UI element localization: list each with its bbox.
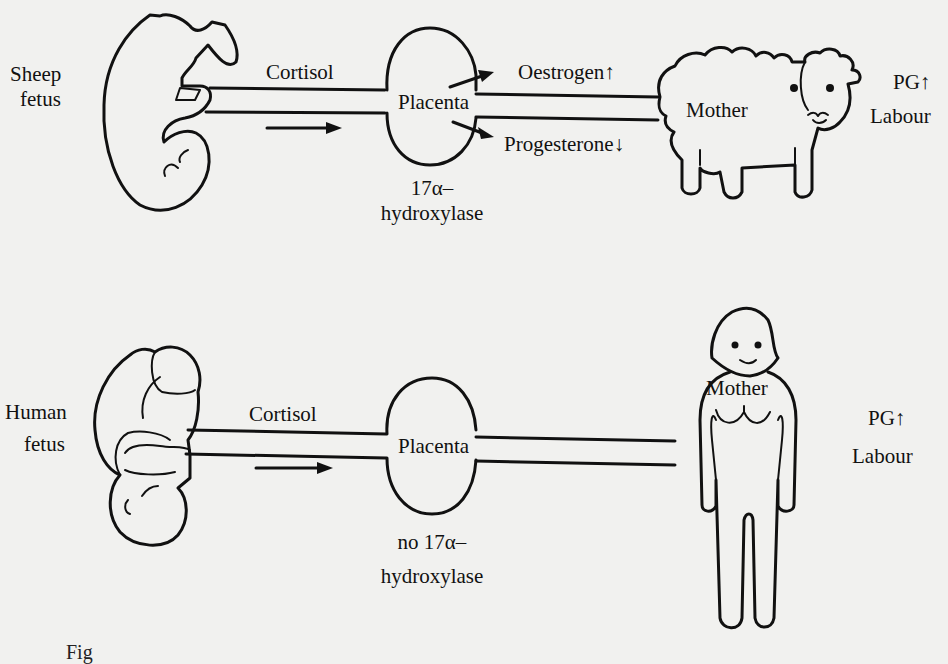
oestrogen-up-arrow-icon: ↑ (604, 60, 615, 84)
sheep-mother-label: Mother (686, 98, 748, 122)
sheep-umbilical-top-line (210, 88, 385, 90)
progesterone-down-arrow-icon: ↓ (614, 132, 625, 156)
human-mother-label: Mother (706, 376, 768, 400)
sheep-umbilical-bottom-line (206, 112, 385, 113)
sheep-maternal-bottom-line (476, 117, 658, 120)
human-maternal-bottom-line (476, 461, 675, 465)
human-fetus-label-line2: fetus (24, 432, 65, 456)
sheep-fetus-label-line1: Sheep (10, 62, 61, 86)
oestrogen-label: Oestrogen↑ (518, 60, 615, 84)
human-umbilical-top-line (188, 430, 386, 434)
sheep-fetus-label-line2: fetus (20, 87, 61, 111)
sheep-placenta-label: Placenta (398, 90, 469, 114)
sheep-cortisol-label: Cortisol (266, 60, 334, 84)
human-placenta-label: Placenta (398, 434, 469, 458)
progesterone-text: Progesterone (504, 132, 614, 156)
human-cortisol-label: Cortisol (249, 402, 317, 426)
sheep-pg-up-arrow-icon: ↑ (920, 70, 931, 94)
progesterone-label: Progesterone↓ (504, 132, 624, 156)
human-umbilical-bottom-line (186, 454, 386, 458)
human-maternal-top-line (476, 437, 675, 441)
human-labour-label: Labour (852, 444, 913, 468)
figure-caption-partial: Fig (66, 641, 93, 664)
human-mother-illustration (700, 308, 796, 627)
sheep-labour-label: Labour (870, 104, 931, 128)
human-enzyme-label-line2: hydroxylase (381, 564, 484, 588)
sheep-pg-text: PG (893, 70, 920, 94)
sheep-flow-arrow-icon (267, 122, 342, 134)
human-flow-arrow-icon (256, 462, 333, 474)
human-fetus-illustration (95, 347, 200, 545)
oestrogen-output-arrow-icon (450, 70, 494, 87)
sheep-maternal-top-line (476, 94, 658, 97)
progesterone-output-arrow-icon (453, 122, 494, 139)
sheep-pg-label: PG↑ (893, 70, 930, 94)
human-enzyme-label-line1: no 17α– (398, 530, 467, 554)
sheep-mother-illustration (659, 47, 860, 198)
human-pg-label: PG↑ (868, 406, 905, 430)
oestrogen-text: Oestrogen (518, 60, 604, 84)
human-fetus-label-line1: Human (5, 400, 67, 424)
sheep-enzyme-label-line2: hydroxylase (381, 201, 484, 225)
human-pg-text: PG (868, 406, 895, 430)
sheep-enzyme-label-line1: 17α– (411, 176, 454, 200)
human-pg-up-arrow-icon: ↑ (895, 406, 906, 430)
